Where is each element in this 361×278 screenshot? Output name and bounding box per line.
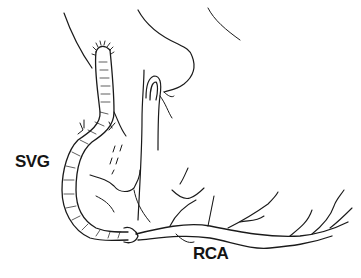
graft-right-wall	[76, 50, 128, 232]
label-rca: RCA	[193, 245, 228, 262]
left-heart-contour	[64, 13, 92, 68]
upper-heart-contour	[138, 10, 194, 92]
heart-line-drawing	[0, 0, 361, 278]
atrial-branch	[160, 92, 174, 118]
rca-trunk-lower	[138, 236, 332, 248]
graft-hatching	[64, 62, 120, 238]
rca-trunk-upper	[136, 222, 348, 236]
graft-left-wall	[62, 52, 128, 241]
rca-curl	[176, 234, 194, 243]
looped-vessel-loop	[146, 76, 161, 150]
mid-heart-contour	[90, 170, 140, 192]
septal-dashes	[110, 145, 122, 174]
ventricle-contour	[114, 112, 126, 136]
rca-branches	[170, 168, 352, 236]
coronary-bypass-diagram: SVG RCA	[0, 0, 361, 278]
lower-ventricle-contour	[96, 190, 150, 222]
label-svg-graft: SVG	[15, 153, 49, 170]
upper-right-vessel	[208, 8, 240, 40]
looped-vessel-outer	[138, 70, 144, 220]
